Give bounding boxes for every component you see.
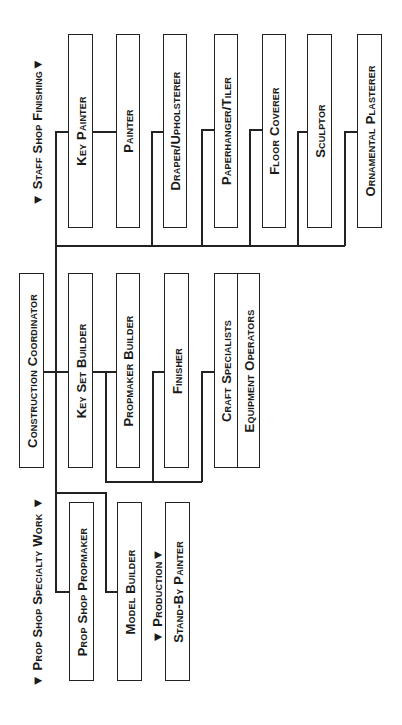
craft-specialists-label: Craft Specialists	[219, 319, 234, 421]
craft-connector-v	[201, 371, 203, 482]
ornamental-connector-h	[344, 131, 358, 133]
craft-connector-h	[201, 371, 215, 373]
box-key-set-builder: Key Set Builder	[68, 273, 93, 468]
box-painter: Painter	[116, 34, 140, 228]
sculptor-label: Sculptor	[312, 104, 327, 158]
finisher-label: Finisher	[169, 347, 184, 393]
box-ornamental-plasterer: Ornamental Plasterer	[357, 34, 382, 228]
draper-upholsterer-label: Draper/Upholsterer	[168, 72, 183, 191]
production-text: ▼ Production▼	[150, 548, 165, 643]
box-paperhanger-tiler: Paperhanger/Tiler	[214, 34, 238, 228]
ornamental-plasterer-label: Ornamental Plasterer	[362, 65, 377, 196]
model-builder-connector-v	[105, 492, 107, 592]
key-set-builder-label: Key Set Builder	[73, 323, 88, 418]
ornamental-connector-v	[344, 131, 346, 246]
box-construction-coordinator: Construction Coordinator	[19, 273, 44, 468]
painter-label: Painter	[121, 109, 136, 153]
construction-bus-line	[105, 481, 202, 483]
box-propmaker-builder: Propmaker Builder	[116, 273, 140, 468]
painter-connector	[92, 131, 116, 133]
floor-coverer-connector-h	[249, 129, 262, 131]
sculptor-connector-v	[297, 131, 299, 246]
coordinator-keyset-connector	[43, 371, 68, 373]
stand-by-painter-label: Stand-By Painter	[170, 541, 185, 643]
box-stand-by-painter: Stand-By Painter	[165, 502, 190, 681]
prop-shop-propmaker-connector-h	[55, 591, 70, 593]
box-craft-specialists: Craft Specialists	[214, 273, 238, 468]
key-painter-label: Key Painter	[73, 96, 88, 165]
prop-shop-specialty-work-text: ▼ Prop Shop Specialty Work ▼	[30, 497, 45, 688]
paperhanger-connector-h	[201, 129, 214, 131]
prop-shop-bus-line	[55, 492, 106, 494]
staff-shop-bus-line	[55, 245, 345, 247]
box-draper-upholsterer: Draper/Upholsterer	[163, 34, 187, 228]
draper-connector-h	[151, 131, 163, 133]
sculptor-connector-h	[297, 131, 307, 133]
trunk-vertical-line	[55, 131, 57, 494]
paperhanger-connector-v	[201, 129, 203, 246]
key-painter-connector	[55, 131, 68, 133]
box-key-painter: Key Painter	[68, 34, 93, 228]
draper-connector-v	[151, 131, 153, 246]
staff-shop-finishing-text: ▼ Staff Shop Finishing▼	[30, 58, 45, 206]
box-finisher: Finisher	[164, 273, 189, 468]
box-prop-shop-propmaker: Prop Shop Propmaker	[69, 502, 94, 681]
floor-coverer-connector-v	[249, 129, 251, 246]
prop-shop-propmaker-label: Prop Shop Propmaker	[74, 527, 89, 656]
box-sculptor: Sculptor	[307, 34, 332, 228]
prop-shop-propmaker-connector-v	[55, 492, 57, 592]
org-chart: ▼ Staff Shop Finishing▼ ▼ Prop Shop Spec…	[0, 0, 402, 725]
paperhanger-tiler-label: Paperhanger/Tiler	[219, 77, 234, 185]
construction-bus-left	[105, 371, 107, 482]
box-model-builder: Model Builder	[117, 502, 142, 681]
floor-coverer-label: Floor Coverer	[267, 87, 282, 175]
model-builder-label: Model Builder	[122, 549, 137, 634]
equipment-operators-label: Equipment Operators	[241, 309, 256, 432]
construction-coordinator-label: Construction Coordinator	[24, 294, 39, 448]
propmaker-builder-label: Propmaker Builder	[121, 315, 136, 426]
box-floor-coverer: Floor Coverer	[262, 34, 286, 228]
box-equipment-operators: Equipment Operators	[237, 273, 260, 468]
finisher-connector-v	[152, 371, 154, 482]
